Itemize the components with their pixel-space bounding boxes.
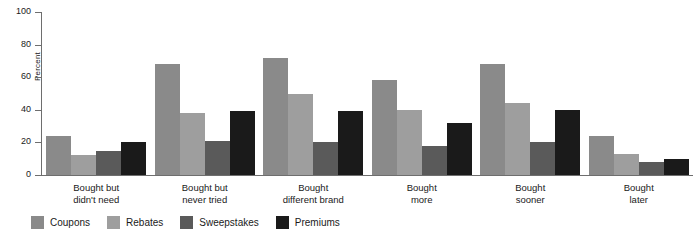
legend-item-sweepstakes[interactable]: Sweepstakes: [180, 216, 258, 229]
y-axis-tick-label: 20: [21, 136, 31, 146]
y-axis-tick-label: 100: [16, 6, 31, 16]
bar-sweepstakes: [530, 142, 555, 175]
y-axis-tick-label: 40: [21, 104, 31, 114]
category-label-line: later: [630, 194, 648, 206]
category-label-line: Bought: [624, 182, 654, 194]
legend-swatch-icon: [276, 216, 289, 229]
bar-rebates: [397, 110, 422, 175]
bar-premiums: [664, 159, 689, 175]
x-axis-category-label: Boughtmore: [368, 182, 477, 212]
x-axis-category-label: Bought butdidn't need: [42, 182, 151, 212]
category-label-line: Bought but: [73, 182, 119, 194]
y-axis-tick-label: 0: [26, 169, 31, 179]
bar-coupons: [589, 136, 614, 175]
chart-legend: CouponsRebatesSweepstakesPremiums: [31, 216, 357, 229]
plot-area: 020406080100: [41, 12, 693, 176]
category-label-line: different brand: [283, 194, 344, 206]
bar-premiums: [447, 123, 472, 175]
bar-coupons: [46, 136, 71, 175]
bar-group: [42, 12, 151, 175]
bar-group: [259, 12, 368, 175]
x-axis-category-label: Boughtdifferent brand: [259, 182, 368, 212]
legend-label: Sweepstakes: [199, 217, 258, 228]
y-axis-tick: 80: [35, 45, 41, 46]
x-axis-category-labels: Bought butdidn't needBought butnever tri…: [42, 182, 693, 212]
category-label-line: more: [411, 194, 433, 206]
bar-rebates: [614, 154, 639, 175]
bar-rebates: [71, 155, 96, 175]
bar-premiums: [230, 111, 255, 175]
bar-coupons: [263, 58, 288, 175]
legend-swatch-icon: [107, 216, 120, 229]
bar-rebates: [288, 94, 313, 176]
bar-rebates: [180, 113, 205, 175]
category-label-line: Bought but: [182, 182, 228, 194]
bar-group: [151, 12, 260, 175]
y-axis-tick: 0: [35, 175, 41, 176]
category-label-line: Bought: [407, 182, 437, 194]
bar-sweepstakes: [205, 141, 230, 175]
bar-coupons: [372, 80, 397, 175]
bar-coupons: [155, 64, 180, 175]
y-axis-tick-label: 60: [21, 71, 31, 81]
y-axis-tick: 60: [35, 77, 41, 78]
category-label-line: didn't need: [73, 194, 119, 206]
bar-sweepstakes: [96, 151, 121, 175]
legend-label: Premiums: [295, 217, 340, 228]
x-axis-category-label: Boughtlater: [585, 182, 694, 212]
bar-sweepstakes: [422, 146, 447, 175]
legend-label: Rebates: [126, 217, 163, 228]
grouped-bar-chart: Percent 020406080100 Bought butdidn't ne…: [0, 0, 699, 238]
bar-sweepstakes: [639, 162, 664, 175]
bar-premiums: [555, 110, 580, 175]
x-axis-category-label: Boughtsooner: [476, 182, 585, 212]
bar-group: [368, 12, 477, 175]
legend-swatch-icon: [31, 216, 44, 229]
bar-coupons: [480, 64, 505, 175]
category-label-line: Bought: [298, 182, 328, 194]
x-axis-line: [41, 175, 693, 176]
bar-rebates: [505, 103, 530, 175]
bar-group: [476, 12, 585, 175]
bar-group: [585, 12, 694, 175]
y-axis-tick: 100: [35, 12, 41, 13]
category-label-line: Bought: [515, 182, 545, 194]
y-axis-tick-label: 80: [21, 39, 31, 49]
bar-groups: [42, 12, 693, 175]
bar-sweepstakes: [313, 142, 338, 175]
legend-swatch-icon: [180, 216, 193, 229]
y-axis-tick: 40: [35, 110, 41, 111]
legend-label: Coupons: [50, 217, 90, 228]
legend-item-premiums[interactable]: Premiums: [276, 216, 340, 229]
y-axis-tick: 20: [35, 142, 41, 143]
category-label-line: never tried: [182, 194, 227, 206]
bar-premiums: [338, 111, 363, 175]
category-label-line: sooner: [516, 194, 545, 206]
legend-item-rebates[interactable]: Rebates: [107, 216, 163, 229]
bar-premiums: [121, 142, 146, 175]
legend-item-coupons[interactable]: Coupons: [31, 216, 90, 229]
x-axis-category-label: Bought butnever tried: [151, 182, 260, 212]
